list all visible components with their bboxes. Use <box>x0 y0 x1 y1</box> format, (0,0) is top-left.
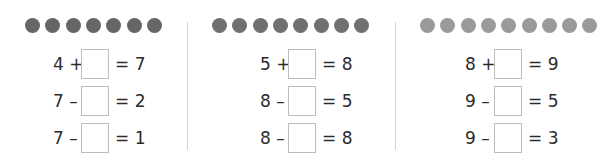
equation-left: 8 + <box>465 53 495 75</box>
answer-box[interactable] <box>494 86 522 116</box>
counter-dot-icon <box>420 18 435 33</box>
group-9: 8 + = 9 9 – = 5 9 – = 3 <box>0 0 613 158</box>
counter-dot-icon <box>440 18 455 33</box>
equation-row: 9 – = 5 <box>0 86 613 117</box>
equation-right: = 9 <box>528 53 558 75</box>
equation-row: 9 – = 3 <box>0 123 613 154</box>
counter-dot-icon <box>481 18 496 33</box>
counter-dot-icon <box>542 18 557 33</box>
counter-dot-icon <box>461 18 476 33</box>
equation-left: 9 – <box>465 90 490 112</box>
counter-dot-icon <box>501 18 516 33</box>
counter-dot-icon <box>522 18 537 33</box>
counter-dot-icon <box>582 18 597 33</box>
equation-row: 8 + = 9 <box>0 49 613 80</box>
equation-right: = 3 <box>528 127 558 149</box>
answer-box[interactable] <box>494 123 522 153</box>
equation-right: = 5 <box>528 90 558 112</box>
counter-dot-icon <box>562 18 577 33</box>
answer-box[interactable] <box>494 49 522 79</box>
equation-left: 9 – <box>465 127 490 149</box>
